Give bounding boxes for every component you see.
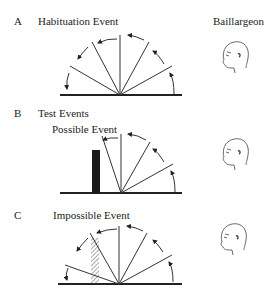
solid-box [92, 150, 100, 193]
hatched-box [91, 238, 99, 284]
panel-b-screen-rotation [60, 134, 182, 193]
panel-c-screen-rotation [58, 226, 182, 284]
infant-head-icon [221, 224, 246, 255]
diagram-figures [0, 0, 273, 298]
panel-a-screen-rotation [60, 35, 182, 95]
infant-head-icon [223, 42, 248, 73]
infant-head-icon [223, 139, 248, 170]
